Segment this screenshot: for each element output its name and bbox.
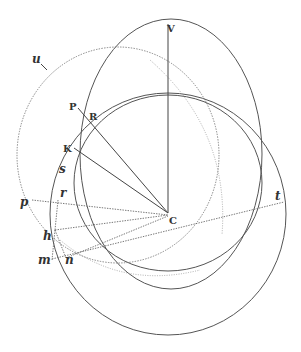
label-r: r bbox=[60, 186, 68, 200]
label-R: R bbox=[89, 111, 98, 122]
label-t: t bbox=[275, 189, 281, 203]
label-V: V bbox=[166, 23, 175, 34]
label-h: h bbox=[43, 229, 52, 243]
line-r-h bbox=[55, 200, 58, 230]
label-s: s bbox=[59, 162, 66, 176]
faint-dotted-arc-right bbox=[150, 60, 223, 235]
geometric-diagram: V P R K s r p h m n C t u bbox=[0, 0, 301, 352]
line-p-C bbox=[32, 200, 168, 215]
label-K: K bbox=[63, 143, 72, 154]
label-p: p bbox=[20, 195, 29, 209]
label-u: u bbox=[32, 52, 41, 66]
upper-ellipse bbox=[80, 19, 262, 289]
line-n-C bbox=[66, 216, 168, 258]
label-n: n bbox=[65, 253, 74, 267]
label-C: C bbox=[169, 215, 177, 226]
label-m: m bbox=[38, 253, 51, 267]
label-P: P bbox=[69, 101, 77, 112]
tick-u bbox=[41, 64, 47, 70]
